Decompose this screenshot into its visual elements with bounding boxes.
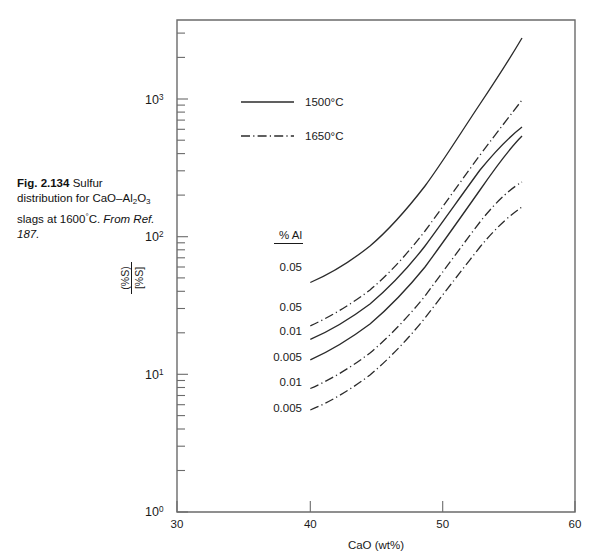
legend: 1500°C 1650°C	[241, 96, 344, 142]
curve-label-1650c-0005: 0.005	[273, 402, 302, 414]
y-axis-major-ticks	[177, 99, 188, 512]
curve-1650c-001	[310, 182, 522, 389]
x-axis-ticks	[177, 501, 575, 512]
curve-label-1500c-001: 0.01	[280, 325, 302, 337]
y-tick-label-1e2: 102	[145, 230, 164, 245]
y-axis-denominator: [%S]	[133, 267, 145, 289]
curve-1500c-005	[310, 38, 522, 283]
y-tick-label-1e1: 101	[145, 367, 164, 382]
y-tick-label-1e3: 103	[145, 92, 164, 107]
curve-label-1650c-001: 0.01	[280, 376, 302, 388]
curve-label-1500c-0005: 0.005	[273, 351, 302, 363]
y-tick-label-1e0: 100	[145, 505, 164, 520]
x-axis-tick-labels: 30 40 50 60	[171, 518, 582, 530]
x-tick-label-30: 30	[171, 518, 184, 530]
curve-label-1500c-005: 0.05	[280, 261, 302, 273]
x-axis-title: CaO (wt%)	[348, 539, 404, 551]
legend-label-1500c: 1500°C	[305, 96, 344, 108]
curve-annotations: % Al 0.05 0.05 0.01 0.005 0.01 0.005	[273, 229, 303, 414]
x-tick-label-40: 40	[304, 518, 317, 530]
curve-1500c-0005	[310, 136, 522, 360]
y-axis-title: (%S) [%S]	[119, 262, 145, 294]
x-tick-label-50: 50	[436, 518, 449, 530]
legend-label-1650c: 1650°C	[305, 130, 344, 142]
figure-plot-area: 100 101 102 103 (%S) [%S] 30 40 50 60 Ca…	[0, 0, 601, 560]
series-group-header: % Al	[279, 229, 302, 241]
y-axis-tick-labels: 100 101 102 103	[145, 92, 164, 519]
plot-frame	[177, 20, 575, 512]
curve-label-1650c-005: 0.05	[280, 301, 302, 313]
x-tick-label-60: 60	[569, 518, 582, 530]
y-axis-numerator: (%S)	[119, 266, 131, 289]
